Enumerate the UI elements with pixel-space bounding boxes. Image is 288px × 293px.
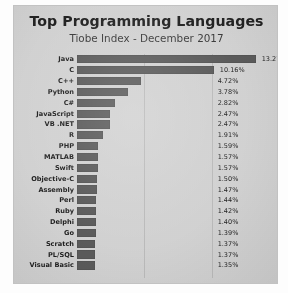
bar-value-label: 1.57%: [218, 153, 239, 161]
bar-track: 1.57%: [77, 152, 278, 163]
bar-track: 4.72%: [77, 76, 278, 87]
bar-track: 1.50%: [77, 173, 278, 184]
bar-category-label: JavaScript: [14, 110, 77, 118]
bar-category-label: Objective-C: [14, 175, 77, 183]
bar-category-label: VB .NET: [14, 120, 77, 128]
bar: [77, 77, 141, 85]
bar-value-label: 1.50%: [218, 175, 239, 183]
bar-value-label: 1.39%: [218, 229, 239, 237]
bar: [77, 218, 96, 226]
bar-value-label: 3.78%: [218, 88, 239, 96]
bar-row: Perl1.44%: [14, 195, 278, 206]
bar-category-label: Perl: [14, 196, 77, 204]
screenshot-root: Top Programming Languages Tiobe Index - …: [0, 0, 288, 293]
bar-track: 1.39%: [77, 228, 278, 239]
bar-track: 1.37%: [77, 249, 278, 260]
bar-category-label: Go: [14, 229, 77, 237]
bar-value-label: 1.59%: [218, 142, 239, 150]
bar-value-label: 2.47%: [218, 120, 239, 128]
bar: [77, 153, 98, 161]
bar-track: 1.42%: [77, 206, 278, 217]
bar: [77, 66, 214, 74]
bar-value-label: 2.82%: [218, 99, 239, 107]
bar-value-label: 13.27%: [262, 55, 278, 63]
bar-category-label: PHP: [14, 142, 77, 150]
bar: [77, 131, 103, 139]
bar-category-label: C: [14, 66, 77, 74]
chart-panel: Top Programming Languages Tiobe Index - …: [13, 5, 278, 284]
bar-category-label: PL/SQL: [14, 251, 77, 259]
bar-row: C10.16%: [14, 65, 278, 76]
bar-track: 10.16%: [77, 65, 278, 76]
bar-category-label: Python: [14, 88, 77, 96]
bar: [77, 207, 96, 215]
plot-area: Java13.27%C10.16%C++4.72%Python3.78%C#2.…: [14, 54, 278, 282]
bar-category-label: Java: [14, 55, 77, 63]
bar-track: 2.47%: [77, 119, 278, 130]
bar-row: C#2.82%: [14, 97, 278, 108]
bar-value-label: 1.42%: [218, 207, 239, 215]
bar-category-label: Delphi: [14, 218, 77, 226]
bar-category-label: Visual Basic: [14, 261, 77, 269]
bar-row: Swift1.57%: [14, 162, 278, 173]
bar-category-label: C++: [14, 77, 77, 85]
bar-row: JavaScript2.47%: [14, 108, 278, 119]
bar-value-label: 1.37%: [218, 240, 239, 248]
bar-track: 1.57%: [77, 162, 278, 173]
bar-row: Delphi1.40%: [14, 217, 278, 228]
bar-row: MATLAB1.57%: [14, 152, 278, 163]
bar: [77, 240, 95, 248]
bar: [77, 164, 98, 172]
bar-row: Assembly1.47%: [14, 184, 278, 195]
bar-track: 1.35%: [77, 260, 278, 271]
bar: [77, 88, 128, 96]
bar: [77, 196, 96, 204]
bar-track: 1.40%: [77, 217, 278, 228]
bar-track: 3.78%: [77, 87, 278, 98]
bar: [77, 185, 97, 193]
bar-value-label: 2.47%: [218, 110, 239, 118]
bar-rows: Java13.27%C10.16%C++4.72%Python3.78%C#2.…: [14, 54, 278, 271]
bar-value-label: 1.47%: [218, 186, 239, 194]
bar-row: Python3.78%: [14, 87, 278, 98]
bar-row: PL/SQL1.37%: [14, 249, 278, 260]
bar-row: Go1.39%: [14, 228, 278, 239]
bar-row: R1.91%: [14, 130, 278, 141]
bar-track: 2.47%: [77, 108, 278, 119]
bar: [77, 175, 97, 183]
bar-track: 1.44%: [77, 195, 278, 206]
bar-category-label: Ruby: [14, 207, 77, 215]
bar-track: 13.27%: [77, 54, 278, 65]
chart-subtitle: Tiobe Index - December 2017: [14, 32, 278, 44]
bar-row: C++4.72%: [14, 76, 278, 87]
bar: [77, 261, 95, 269]
bar: [77, 142, 98, 150]
chart-header: Top Programming Languages Tiobe Index - …: [14, 13, 278, 44]
bar: [77, 55, 256, 63]
bar: [77, 120, 110, 128]
bar-category-label: Assembly: [14, 186, 77, 194]
bar-row: Objective-C1.50%: [14, 173, 278, 184]
bar-value-label: 1.57%: [218, 164, 239, 172]
bar-value-label: 1.37%: [218, 251, 239, 259]
bar-track: 1.91%: [77, 130, 278, 141]
bar-value-label: 1.35%: [218, 261, 239, 269]
bar-category-label: MATLAB: [14, 153, 77, 161]
bar-row: Visual Basic1.35%: [14, 260, 278, 271]
bar-category-label: C#: [14, 99, 77, 107]
bar-track: 1.59%: [77, 141, 278, 152]
bar: [77, 250, 95, 258]
bar-track: 1.47%: [77, 184, 278, 195]
bar-value-label: 10.16%: [220, 66, 245, 74]
bar-category-label: Swift: [14, 164, 77, 172]
bar-category-label: R: [14, 131, 77, 139]
chart-title: Top Programming Languages: [14, 13, 278, 29]
bar-row: PHP1.59%: [14, 141, 278, 152]
bar-value-label: 1.44%: [218, 196, 239, 204]
bar: [77, 99, 115, 107]
bar-row: VB .NET2.47%: [14, 119, 278, 130]
bar-row: Ruby1.42%: [14, 206, 278, 217]
bar-track: 2.82%: [77, 97, 278, 108]
bar-row: Scratch1.37%: [14, 238, 278, 249]
bar-value-label: 4.72%: [218, 77, 239, 85]
